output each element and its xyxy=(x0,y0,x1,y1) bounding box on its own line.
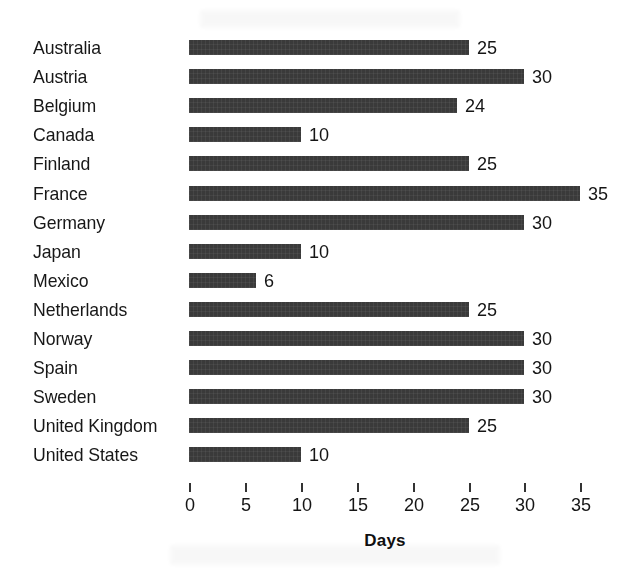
category-label: Austria xyxy=(33,65,87,89)
axis-tick xyxy=(469,483,471,492)
bar xyxy=(189,215,524,230)
bar-row: Spain30 xyxy=(0,356,644,380)
bar-row: Sweden30 xyxy=(0,385,644,409)
bar xyxy=(189,389,524,404)
bar-row: Germany30 xyxy=(0,211,644,235)
axis-tick xyxy=(357,483,359,492)
category-label: Finland xyxy=(33,152,90,176)
bar xyxy=(189,331,524,346)
category-label: Netherlands xyxy=(33,298,127,322)
bar-value-label: 25 xyxy=(477,36,497,60)
bar-value-label: 30 xyxy=(532,356,552,380)
bar-row: Austria30 xyxy=(0,65,644,89)
bar-value-label: 30 xyxy=(532,327,552,351)
bar-value-label: 35 xyxy=(588,182,608,206)
bar-row: Finland25 xyxy=(0,152,644,176)
bar xyxy=(189,302,469,317)
axis-tick xyxy=(524,483,526,492)
category-label: Mexico xyxy=(33,269,88,293)
bar xyxy=(189,360,524,375)
bar-value-label: 30 xyxy=(532,385,552,409)
bar xyxy=(189,69,524,84)
category-label: Sweden xyxy=(33,385,96,409)
bar-chart: Australia25Austria30Belgium24Canada10Fin… xyxy=(0,0,644,583)
axis-tick xyxy=(413,483,415,492)
bar-row: Australia25 xyxy=(0,36,644,60)
bar xyxy=(189,156,469,171)
bar xyxy=(189,186,580,201)
category-label: Belgium xyxy=(33,94,96,118)
axis-tick-label: 0 xyxy=(171,494,209,516)
bar-value-label: 10 xyxy=(309,240,329,264)
bar xyxy=(189,273,256,288)
bar-row: Japan10 xyxy=(0,240,644,264)
bar-row: Mexico6 xyxy=(0,269,644,293)
category-label: Japan xyxy=(33,240,81,264)
bar xyxy=(189,447,301,462)
category-label: Norway xyxy=(33,327,92,351)
bar-row: United States10 xyxy=(0,443,644,467)
bar-value-label: 10 xyxy=(309,443,329,467)
axis-tick-label: 10 xyxy=(283,494,321,516)
axis-tick-label: 35 xyxy=(562,494,600,516)
bar-row: Netherlands25 xyxy=(0,298,644,322)
bar xyxy=(189,98,457,113)
bar xyxy=(189,127,301,142)
category-label: Australia xyxy=(33,36,101,60)
category-label: Spain xyxy=(33,356,78,380)
bar-row: Norway30 xyxy=(0,327,644,351)
bar-value-label: 30 xyxy=(532,65,552,89)
axis-tick-label: 30 xyxy=(506,494,544,516)
axis-tick xyxy=(580,483,582,492)
bar-value-label: 10 xyxy=(309,123,329,147)
bar xyxy=(189,418,469,433)
axis-tick-label: 20 xyxy=(395,494,433,516)
bar-value-label: 25 xyxy=(477,298,497,322)
category-label: France xyxy=(33,182,87,206)
bar-row: Belgium24 xyxy=(0,94,644,118)
axis-tick-label: 25 xyxy=(451,494,489,516)
axis-tick xyxy=(189,483,191,492)
category-label: United Kingdom xyxy=(33,414,157,438)
bar xyxy=(189,244,301,259)
bar xyxy=(189,40,469,55)
bar-row: United Kingdom25 xyxy=(0,414,644,438)
bar-value-label: 24 xyxy=(465,94,485,118)
axis-tick xyxy=(245,483,247,492)
category-label: Canada xyxy=(33,123,94,147)
axis-tick-label: 15 xyxy=(339,494,377,516)
bar-value-label: 30 xyxy=(532,211,552,235)
bar-row: Canada10 xyxy=(0,123,644,147)
x-axis: 05101520253035 xyxy=(0,483,644,523)
category-label: Germany xyxy=(33,211,105,235)
axis-tick xyxy=(301,483,303,492)
bar-value-label: 6 xyxy=(264,269,274,293)
category-label: United States xyxy=(33,443,138,467)
bar-row: France35 xyxy=(0,182,644,206)
axis-tick-label: 5 xyxy=(227,494,265,516)
x-axis-title: Days xyxy=(325,531,445,551)
bar-value-label: 25 xyxy=(477,414,497,438)
bar-value-label: 25 xyxy=(477,152,497,176)
